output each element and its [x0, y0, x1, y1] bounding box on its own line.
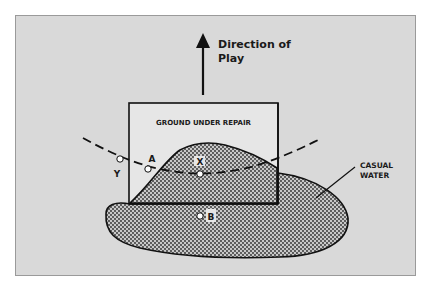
- point-x-label: X: [197, 157, 204, 167]
- point-y-label: Y: [113, 169, 121, 179]
- direction-of-play-label-line2: Play: [218, 52, 244, 65]
- ground-under-repair-label: GROUND UNDER REPAIR: [156, 119, 252, 127]
- point-b-marker: [197, 213, 203, 219]
- golf-rules-diagram: Direction of Play GROUND UNDER REPAIR Y …: [0, 0, 427, 293]
- casual-water-label: CASUAL: [360, 161, 393, 170]
- point-a-marker: [145, 166, 151, 172]
- point-x-marker: [197, 171, 203, 177]
- casual-water-label-line2: WATER: [360, 171, 389, 180]
- point-b-label: B: [208, 212, 215, 222]
- point-a-label: A: [149, 154, 156, 164]
- direction-of-play-label: Direction of: [218, 38, 291, 51]
- point-y-marker: [117, 156, 123, 162]
